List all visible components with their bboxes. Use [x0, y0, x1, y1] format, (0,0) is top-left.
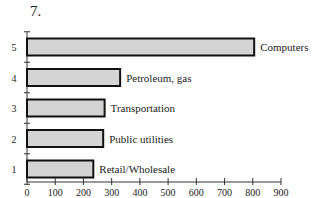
bar-label: Computers — [260, 41, 308, 53]
x-tick-label: 600 — [189, 187, 204, 198]
bar-label: Transportation — [111, 102, 176, 114]
x-tick-label: 100 — [48, 187, 63, 198]
bar — [27, 161, 93, 178]
y-tick-label: 5 — [12, 42, 17, 53]
x-tick-label: 800 — [245, 187, 260, 198]
y-tick-label: 1 — [12, 164, 17, 175]
bar — [27, 39, 254, 56]
x-tick-label: 500 — [161, 187, 176, 198]
y-tick-label: 2 — [12, 134, 17, 145]
bar-label: Petroleum, gas — [126, 72, 191, 84]
x-tick-label: 400 — [132, 187, 147, 198]
x-tick-label: 300 — [104, 187, 119, 198]
bar-chart: 1Retail/Wholesale2Public utilities3Trans… — [0, 0, 315, 198]
y-tick-label: 3 — [12, 103, 17, 114]
bar — [27, 100, 105, 117]
x-tick-label: 700 — [217, 187, 232, 198]
y-tick-label: 4 — [12, 73, 17, 84]
bar — [27, 69, 120, 86]
x-tick-label: 0 — [25, 187, 30, 198]
bar-label: Retail/Wholesale — [99, 163, 175, 175]
x-tick-label: 900 — [274, 187, 289, 198]
bar — [27, 130, 103, 147]
x-tick-label: 200 — [76, 187, 91, 198]
bar-label: Public utilities — [109, 133, 173, 145]
